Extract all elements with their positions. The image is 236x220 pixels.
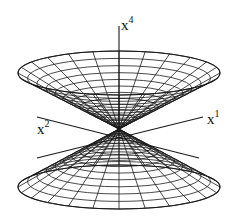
x1-label-superscript: 1 bbox=[215, 108, 220, 119]
x1-axis-label: x1 bbox=[207, 112, 220, 127]
light-cone-diagram bbox=[0, 0, 236, 220]
x2-axis-label: x2 bbox=[37, 122, 50, 137]
x4-label-base: x bbox=[121, 17, 129, 33]
x2-label-base: x bbox=[37, 121, 45, 137]
cone-generator-line bbox=[119, 54, 170, 129]
cone-generator-line bbox=[119, 129, 217, 193]
x4-label-superscript: 4 bbox=[129, 14, 134, 25]
x2-label-superscript: 2 bbox=[45, 118, 50, 129]
cone-generator-line bbox=[21, 129, 119, 193]
lower-cone-wireframe bbox=[18, 129, 220, 209]
cone-generator-line bbox=[69, 54, 120, 129]
x1-label-base: x bbox=[207, 111, 215, 127]
x4-axis-label: x4 bbox=[121, 18, 134, 33]
